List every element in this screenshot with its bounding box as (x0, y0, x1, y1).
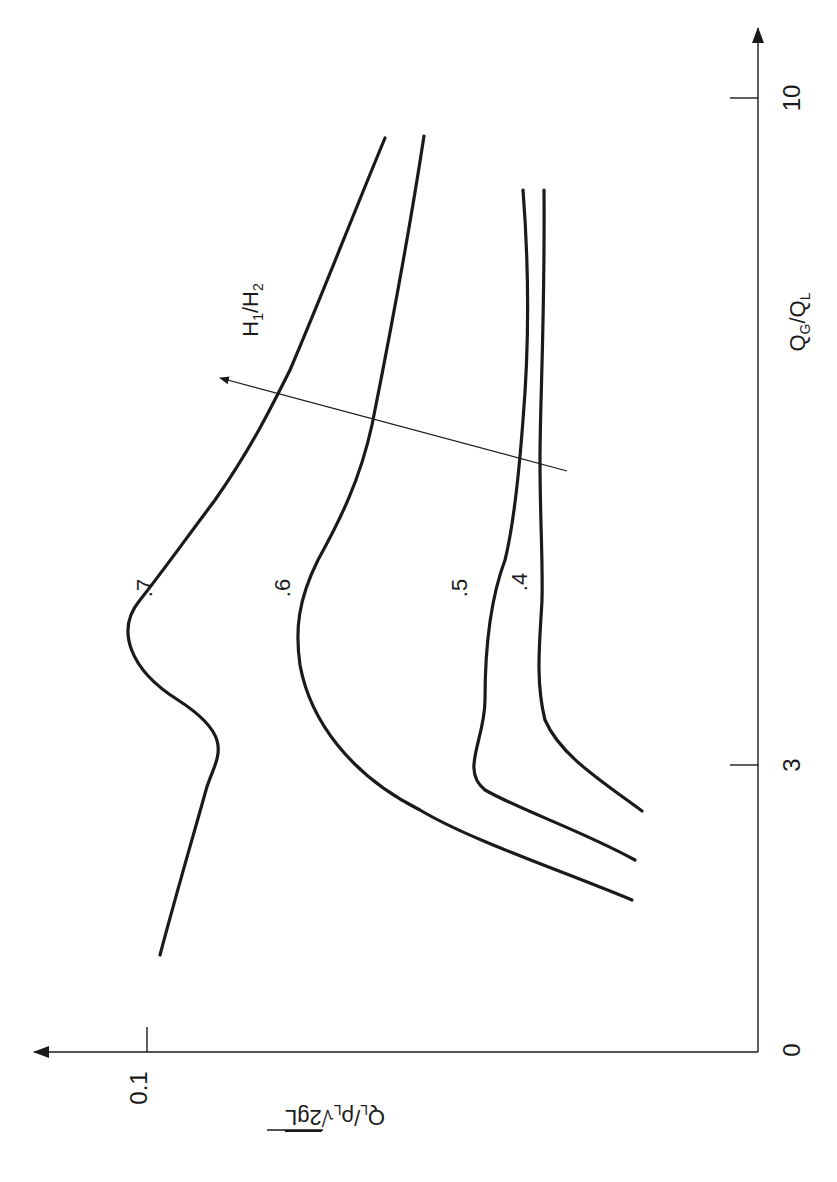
curve-label-0.6: .6 (270, 579, 295, 597)
curve-0.4 (539, 190, 642, 811)
x-axis: 0 3 10 QG/QL (730, 28, 813, 1057)
x-tick-label-3: 3 (778, 758, 805, 771)
curve-0.6 (298, 136, 632, 900)
curves (128, 136, 642, 955)
curve-label-0.5: .5 (447, 579, 472, 597)
x-tick-label-10: 10 (778, 85, 805, 112)
curve-label-0.4: .4 (507, 573, 532, 591)
curve-0.5 (474, 190, 635, 860)
x-tick-label-0: 0 (778, 1043, 805, 1056)
curve-label-0.7: .7 (132, 579, 157, 597)
curve-labels: .7 .6 .5 .4 (132, 573, 532, 597)
direction-arrow-icon (220, 378, 567, 471)
curve-0.7 (128, 138, 385, 955)
y-axis-title: QL/ρL√2gL (267, 1102, 385, 1130)
x-axis-title: QG/QL (785, 292, 813, 351)
y-axis: 0.1 QL/ρL√2gL (34, 1027, 758, 1130)
y-tick-label-0.1: 0.1 (125, 1071, 152, 1104)
y-axis-title-text: QL/ρL√2gL (285, 1102, 385, 1130)
h1-h2-label: H1/H2 (238, 283, 266, 337)
chart: 0 3 10 QG/QL 0.1 QL/ρL√2gL .7 .6 .5 .4 H… (0, 0, 837, 1182)
